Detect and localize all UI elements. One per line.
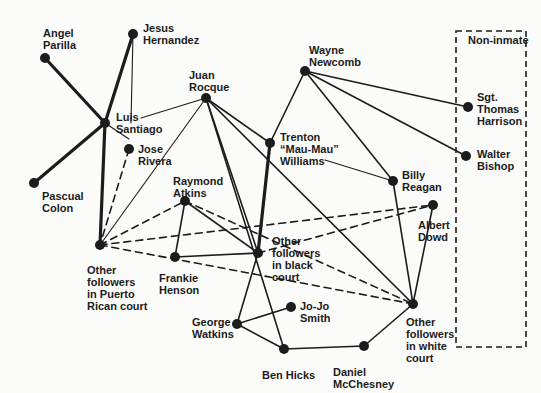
- edge-george-jojo: [237, 307, 291, 324]
- edge-otherpr-raymond: [100, 201, 185, 245]
- node-frankie: [170, 252, 180, 262]
- node-jojo: [286, 302, 296, 312]
- node-luis: [100, 118, 110, 128]
- edge-black-george: [237, 253, 258, 324]
- node-label-juan: Juan Rocque: [189, 69, 229, 93]
- node-label-raymond: Raymond Atkins: [173, 175, 223, 199]
- node-label-albert: Albert Dowd: [418, 219, 450, 243]
- node-angel: [40, 53, 50, 63]
- node-label-jesus: Jesus Hernandez: [143, 22, 199, 46]
- node-label-black: Other followers in black court: [272, 235, 320, 283]
- node-label-pascual: Pascual Colon: [42, 190, 84, 214]
- node-label-harrison: Sgt. Thomas Harrison: [477, 91, 522, 127]
- edge-jesus-luis: [105, 34, 133, 123]
- edge-otherpr-albert: [100, 205, 433, 245]
- edge-billy-white: [393, 181, 413, 304]
- edge-frankie-black: [175, 253, 258, 257]
- node-harrison: [463, 102, 473, 112]
- node-label-ben: Ben Hicks: [262, 369, 315, 381]
- node-black: [253, 248, 263, 258]
- node-pascual: [29, 178, 39, 188]
- edge-luis-otherpr: [100, 123, 105, 245]
- node-label-otherpr: Other followers in Puerto Rican court: [87, 264, 148, 312]
- edge-angel-luis: [45, 58, 105, 123]
- non-inmate-box: [456, 31, 526, 347]
- node-daniel: [359, 341, 369, 351]
- node-white: [408, 299, 418, 309]
- node-label-jose: Jose Rivera: [138, 143, 172, 167]
- node-jesus: [128, 29, 138, 39]
- node-label-george: George Watkins: [192, 316, 234, 340]
- edge-ben-daniel: [284, 346, 364, 349]
- sociogram-diagram: Non-inmate Angel ParillaJesus HernandezL…: [0, 0, 541, 393]
- node-otherpr: [95, 240, 105, 250]
- node-ben: [279, 344, 289, 354]
- node-label-jojo: Jo-Jo Smith: [300, 300, 331, 324]
- node-label-billy: Billy Reagan: [402, 169, 442, 193]
- node-juan: [201, 93, 211, 103]
- edge-juan-trenton: [206, 98, 270, 143]
- edge-raymond-frankie: [175, 201, 185, 257]
- node-billy: [388, 176, 398, 186]
- node-albert: [428, 200, 438, 210]
- edge-luis-pascual: [34, 123, 105, 183]
- node-jose: [124, 144, 134, 154]
- edge-jesus-luis: [131, 34, 133, 123]
- node-label-wayne: Wayne Newcomb: [309, 44, 361, 68]
- node-label-white: Other followers in white court: [406, 316, 454, 364]
- node-label-angel: Angel Parilla: [43, 27, 76, 51]
- node-trenton: [265, 138, 275, 148]
- node-label-luis: Luis Santiago: [116, 111, 162, 135]
- node-label-trenton: Trenton “Mau-Mau” Williams: [280, 131, 339, 167]
- node-label-daniel: Daniel McChesney: [333, 366, 394, 390]
- node-bishop: [461, 151, 471, 161]
- non-inmate-box-label: Non-inmate: [468, 34, 529, 46]
- node-label-frankie: Frankie Henson: [159, 272, 199, 296]
- node-label-bishop: Walter Bishop: [477, 148, 514, 172]
